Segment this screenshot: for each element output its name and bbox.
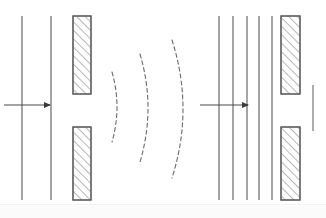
- right-single-slit-barrier: [281, 16, 300, 200]
- right-incident-wavefronts: [219, 16, 272, 200]
- right-panel-group: [200, 16, 313, 200]
- diffracted-arc-2: [140, 54, 148, 162]
- left-diffracted-arcs: [112, 40, 183, 178]
- left-panel-group: [4, 16, 183, 200]
- right-barrier-upper-hatch: [281, 16, 300, 94]
- left-incident-wavefronts: [22, 16, 51, 200]
- left-barrier-lower-hatch: [73, 127, 91, 200]
- diffraction-figure: [0, 0, 326, 218]
- diffracted-arc-1: [112, 72, 117, 142]
- diffracted-arc-3: [172, 40, 183, 178]
- figure-canvas: [0, 0, 326, 218]
- left-single-slit-barrier: [73, 16, 91, 200]
- right-barrier-lower-hatch: [281, 127, 300, 200]
- left-barrier-upper-hatch: [73, 16, 91, 94]
